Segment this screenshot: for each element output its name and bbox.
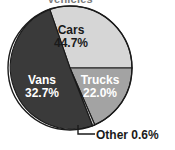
- slice-label-other: Other 0.6%: [96, 128, 159, 142]
- pie-chart: Vehicles Cars 44.7% Vans 32.7% Trucks 22…: [0, 0, 175, 150]
